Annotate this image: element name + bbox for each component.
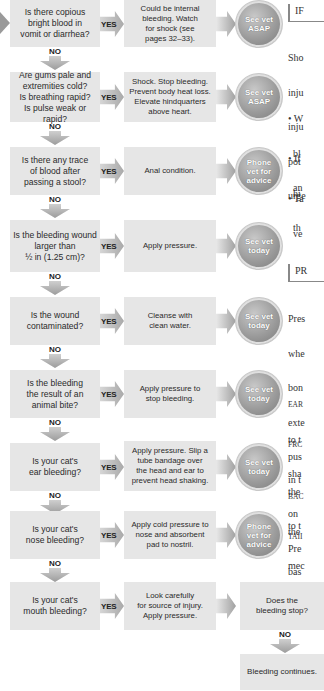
no-label: NO [49, 491, 61, 500]
outcome-circle-phone-vet: Phone vet for advice [236, 148, 282, 194]
no-arrow: NO [40, 418, 70, 442]
yes-arrow: YES [100, 308, 124, 334]
no-arrow: NO [40, 345, 70, 369]
action-box-internal-bleeding: Could be internal bleeding. Watch for sh… [124, 0, 216, 47]
yes-label: YES [101, 531, 116, 540]
action-box-apply-pressure: Apply pressure. [124, 220, 216, 272]
yes-arrow: YES [100, 522, 124, 548]
arrow-right-icon [216, 11, 236, 37]
arrow-down-icon [40, 131, 70, 145]
section-heading-if: IF [288, 4, 324, 22]
text-line: FRC [288, 439, 324, 451]
text-line: Sho [288, 52, 324, 64]
arrow-down-icon [270, 639, 300, 653]
arrow-right-icon [216, 381, 236, 407]
arrow-right-icon [216, 308, 236, 334]
outcome-label: See vet today [245, 237, 273, 255]
no-label: NO [279, 630, 291, 639]
no-label: NO [49, 122, 61, 131]
arrow-right-icon [216, 593, 236, 619]
no-label: NO [49, 195, 61, 204]
arrow-down-icon [40, 354, 70, 368]
bullet-item: • Ta ve [288, 170, 324, 251]
action-box-anal-condition: Anal condition. [124, 147, 216, 195]
yes-label: YES [101, 167, 116, 176]
question-box-copious-blood: Is there copious bright blood in vomit o… [10, 0, 100, 47]
outcome-label: Phone vet for advice [247, 522, 272, 549]
no-label: NO [49, 418, 61, 427]
outcome-circle-see-vet-today: See vet today [236, 371, 282, 417]
question-box-shock-signs: Are gums pale and extremities cold? Is b… [10, 72, 100, 122]
arrow-right-icon [216, 158, 236, 184]
text-line: • W [288, 113, 324, 125]
yes-arrow: YES [100, 381, 124, 407]
outcome-label: See vet today [245, 385, 273, 403]
outcome-circle-see-vet-today: See vet today [236, 298, 282, 344]
outcome-circle-see-vet-today: See vet today [236, 444, 282, 490]
action-box-stop-bleeding: Apply pressure to stop bleeding. [124, 370, 216, 418]
yes-label: YES [101, 602, 116, 611]
question-box-animal-bite: Is the bleeding the result of an animal … [10, 370, 100, 418]
no-arrow: NO [40, 47, 70, 71]
text-line: whe [288, 348, 324, 360]
question-box-blood-stool: Is there any trace of blood after passin… [10, 147, 100, 195]
text-line: Pres [288, 313, 324, 325]
text-line: BAC [288, 491, 324, 503]
question-box-mouth-bleeding: Is your cat's mouth bleeding? [10, 582, 100, 630]
yes-arrow: YES [100, 84, 124, 110]
arrow-down-icon [40, 427, 70, 441]
outcome-label: Phone vet for advice [247, 158, 272, 185]
action-box-cleanse: Cleanse with clean water. [124, 297, 216, 345]
yes-label: YES [101, 463, 116, 472]
text-line: EAR [288, 399, 324, 411]
no-arrow: NO [40, 195, 70, 219]
yes-arrow: YES [100, 11, 124, 37]
yes-label: YES [101, 317, 116, 326]
no-label: NO [49, 559, 61, 568]
yes-label: YES [101, 242, 116, 251]
no-label: NO [49, 47, 61, 56]
arrow-right-icon [216, 84, 236, 110]
action-box-shock: Shock. Stop bleeding. Prevent body heat … [124, 72, 216, 122]
arrow-down-icon [40, 568, 70, 582]
text-line: bas [288, 566, 324, 578]
yes-label: YES [101, 20, 116, 29]
outcome-circle-see-vet-asap: See vet ASAP [236, 1, 282, 47]
no-label: NO [49, 345, 61, 354]
question-box-nose-bleeding: Is your cat's nose bleeding? [10, 511, 100, 559]
no-arrow: NO [40, 122, 70, 146]
question-box-wound-size: Is the bleeding wound larger than ½ in (… [10, 220, 100, 272]
text-line: ve [288, 228, 324, 240]
no-arrow: NO [270, 630, 300, 654]
question-box-bleeding-stop: Does the bleeding stop? [240, 582, 324, 630]
yes-arrow: YES [100, 158, 124, 184]
entry-arrow [0, 12, 10, 34]
result-box-bleeding-continues: Bleeding continues. [240, 654, 324, 690]
no-arrow: NO [40, 272, 70, 296]
question-box-contaminated: Is the wound contaminated? [10, 297, 100, 345]
outcome-label: See vet ASAP [245, 88, 273, 106]
no-label: NO [49, 272, 61, 281]
yes-label: YES [101, 390, 116, 399]
yes-arrow: YES [100, 454, 124, 480]
text-line: TAII [288, 531, 324, 543]
yes-arrow: YES [100, 593, 124, 619]
arrow-down-icon [40, 281, 70, 295]
action-box-look-carefully: Look carefully for source of injury. App… [124, 582, 216, 630]
text-line: • If [288, 153, 324, 165]
arrow-right-icon [216, 233, 236, 259]
outcome-label: See vet ASAP [245, 15, 273, 33]
arrow-down-icon [40, 204, 70, 218]
action-box-ear-bandage: Apply pressure. Slip a tube bandage over… [124, 441, 216, 491]
outcome-circle-see-vet-asap: See vet ASAP [236, 74, 282, 120]
arrow-down-icon [40, 56, 70, 70]
arrow-right-icon [216, 522, 236, 548]
outcome-circle-see-vet-today: See vet today [236, 223, 282, 269]
text-line: • Ta [288, 193, 324, 205]
yes-label: YES [101, 93, 116, 102]
action-box-cold-pressure: Apply cold pressure to nose and absorben… [124, 511, 216, 559]
arrow-right-icon [216, 454, 236, 480]
outcome-label: See vet today [245, 312, 273, 330]
section-heading-pr: PR [288, 264, 324, 282]
outcome-circle-phone-vet: Phone vet for advice [236, 512, 282, 558]
